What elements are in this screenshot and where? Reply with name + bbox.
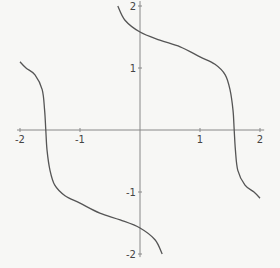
- x-tick-label: 2: [257, 134, 263, 145]
- curve-upper-branch: [118, 6, 260, 198]
- curve-lower-branch: [20, 62, 162, 254]
- axes: [17, 1, 264, 257]
- plot-area: -2-112-2-112: [0, 0, 280, 268]
- y-tick-label: 2: [130, 1, 136, 12]
- y-tick-label: -2: [126, 249, 136, 260]
- x-tick-label: 1: [197, 134, 203, 145]
- y-tick-label: -1: [126, 187, 136, 198]
- x-tick-label: -2: [15, 134, 25, 145]
- x-tick-label: -1: [75, 134, 85, 145]
- y-tick-label: 1: [130, 63, 136, 74]
